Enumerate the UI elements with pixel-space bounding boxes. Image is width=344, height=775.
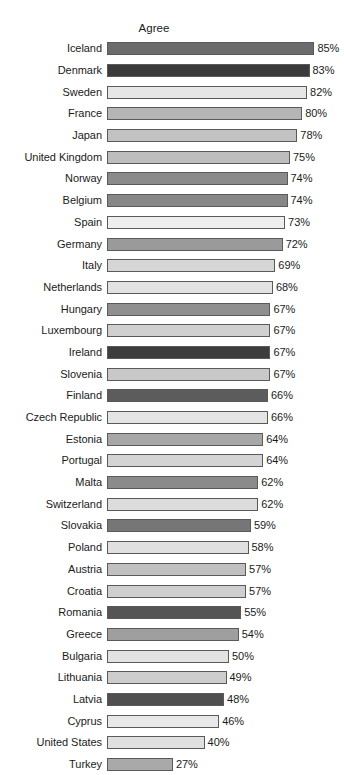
bar-category-label: Italy bbox=[0, 260, 102, 271]
bar-fill bbox=[107, 606, 241, 619]
bar-fill bbox=[107, 238, 283, 251]
bar-category-label: Norway bbox=[0, 173, 102, 184]
bar-track: 64% bbox=[102, 428, 344, 450]
bar-fill bbox=[107, 129, 297, 142]
bar-category-label: Croatia bbox=[0, 586, 102, 597]
bar-category-label: Estonia bbox=[0, 434, 102, 445]
bar-fill bbox=[107, 411, 268, 424]
bar-category-label: Belgium bbox=[0, 195, 102, 206]
bar-row: Norway74% bbox=[0, 168, 344, 190]
bar-category-label: Cyprus bbox=[0, 716, 102, 727]
bar-track: 48% bbox=[102, 689, 344, 711]
bar-category-label: Netherlands bbox=[0, 282, 102, 293]
bar-category-label: France bbox=[0, 108, 102, 119]
bar-fill bbox=[107, 454, 263, 467]
bar-row: Belgium74% bbox=[0, 190, 344, 212]
bar-value-label: 62% bbox=[261, 477, 283, 488]
bar-row: Turkey27% bbox=[0, 754, 344, 775]
bar-fill bbox=[107, 476, 258, 489]
bar-value-label: 68% bbox=[276, 282, 298, 293]
bar-value-label: 40% bbox=[208, 737, 230, 748]
bar-category-label: Lithuania bbox=[0, 672, 102, 683]
bar-track: 50% bbox=[102, 645, 344, 667]
bar-value-label: 74% bbox=[291, 173, 313, 184]
bar-fill bbox=[107, 715, 219, 728]
bar-value-label: 50% bbox=[232, 651, 254, 662]
bar-row: France80% bbox=[0, 103, 344, 125]
bar-fill bbox=[107, 151, 290, 164]
bar-track: 75% bbox=[102, 146, 344, 168]
bar-category-label: Latvia bbox=[0, 694, 102, 705]
bar-value-label: 73% bbox=[288, 217, 310, 228]
bar-category-label: Ireland bbox=[0, 347, 102, 358]
bar-track: 72% bbox=[102, 233, 344, 255]
bar-fill bbox=[107, 194, 288, 207]
bar-track: 27% bbox=[102, 754, 344, 775]
bar-category-label: Sweden bbox=[0, 87, 102, 98]
bar-track: 80% bbox=[102, 103, 344, 125]
bar-track: 74% bbox=[102, 168, 344, 190]
bar-track: 58% bbox=[102, 537, 344, 559]
bar-category-label: Japan bbox=[0, 130, 102, 141]
bar-value-label: 82% bbox=[310, 87, 332, 98]
bar-fill bbox=[107, 519, 251, 532]
bar-category-label: Spain bbox=[0, 217, 102, 228]
bar-track: 68% bbox=[102, 277, 344, 299]
bar-track: 57% bbox=[102, 580, 344, 602]
bar-row: Ireland67% bbox=[0, 342, 344, 364]
bar-fill bbox=[107, 628, 239, 641]
bar-value-label: 67% bbox=[273, 369, 295, 380]
bar-track: 46% bbox=[102, 710, 344, 732]
chart-title: Agree bbox=[0, 22, 344, 34]
bar-value-label: 48% bbox=[227, 694, 249, 705]
bar-fill bbox=[107, 324, 270, 337]
bar-value-label: 85% bbox=[317, 43, 339, 54]
bar-row: Switzerland62% bbox=[0, 493, 344, 515]
bar-category-label: Iceland bbox=[0, 43, 102, 54]
bar-fill bbox=[107, 433, 263, 446]
bar-fill bbox=[107, 368, 270, 381]
bar-fill bbox=[107, 259, 275, 272]
bar-value-label: 62% bbox=[261, 499, 283, 510]
bar-rows-container: Iceland85%Denmark83%Sweden82%France80%Ja… bbox=[0, 38, 344, 775]
bar-fill bbox=[107, 172, 288, 185]
bar-value-label: 49% bbox=[230, 672, 252, 683]
bar-value-label: 67% bbox=[273, 325, 295, 336]
bar-fill bbox=[107, 86, 307, 99]
bar-value-label: 66% bbox=[271, 412, 293, 423]
bar-row: Bulgaria50% bbox=[0, 645, 344, 667]
bar-value-label: 72% bbox=[286, 239, 308, 250]
bar-category-label: United States bbox=[0, 737, 102, 748]
bar-value-label: 59% bbox=[254, 520, 276, 531]
bar-fill bbox=[107, 389, 268, 402]
bar-value-label: 74% bbox=[291, 195, 313, 206]
bar-row: Estonia64% bbox=[0, 428, 344, 450]
bar-row: Luxembourg67% bbox=[0, 320, 344, 342]
bar-track: 67% bbox=[102, 342, 344, 364]
bar-track: 62% bbox=[102, 472, 344, 494]
bar-category-label: Bulgaria bbox=[0, 651, 102, 662]
bar-fill bbox=[107, 563, 246, 576]
bar-row: Denmark83% bbox=[0, 60, 344, 82]
bar-track: 57% bbox=[102, 559, 344, 581]
bar-category-label: Austria bbox=[0, 564, 102, 575]
bar-track: 82% bbox=[102, 81, 344, 103]
bar-value-label: 67% bbox=[273, 304, 295, 315]
bar-track: 55% bbox=[102, 602, 344, 624]
bar-fill bbox=[107, 346, 270, 359]
bar-fill bbox=[107, 216, 285, 229]
bar-value-label: 58% bbox=[252, 542, 274, 553]
bar-category-label: Germany bbox=[0, 239, 102, 250]
bar-track: 67% bbox=[102, 298, 344, 320]
bar-fill bbox=[107, 671, 227, 684]
bar-category-label: Switzerland bbox=[0, 499, 102, 510]
bar-category-label: Poland bbox=[0, 542, 102, 553]
bar-value-label: 67% bbox=[273, 347, 295, 358]
bar-row: Japan78% bbox=[0, 125, 344, 147]
bar-track: 62% bbox=[102, 493, 344, 515]
bar-row: Iceland85% bbox=[0, 38, 344, 60]
bar-track: 40% bbox=[102, 732, 344, 754]
bar-row: Germany72% bbox=[0, 233, 344, 255]
bar-fill bbox=[107, 693, 224, 706]
bar-row: Netherlands68% bbox=[0, 277, 344, 299]
